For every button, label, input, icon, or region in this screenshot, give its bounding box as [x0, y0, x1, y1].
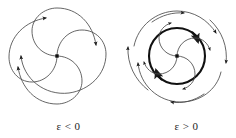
- trajectory-outer: [152, 13, 184, 22]
- phase-portrait-panel-right: ε > 0: [118, 0, 236, 138]
- trajectory: [32, 8, 96, 56]
- trajectory: [18, 56, 82, 104]
- trajectory-outer: [210, 20, 226, 63]
- trajectory-outer: [138, 63, 221, 102]
- phase-portrait-stable-spiral: [0, 2, 118, 110]
- trajectory: [9, 18, 57, 82]
- fixed-point-marker: [175, 54, 178, 57]
- caption-left: ε < 0: [0, 108, 118, 138]
- fixed-point-marker: [55, 54, 58, 57]
- phase-portrait-panel-left: ε < 0: [0, 0, 118, 138]
- caption-right-text: ε > 0: [175, 120, 199, 132]
- caption-left-text: ε < 0: [57, 120, 81, 132]
- caption-right: ε > 0: [118, 108, 236, 138]
- phase-portrait-limit-cycle: [118, 2, 236, 110]
- hopf-bifurcation-figure: ε < 0: [0, 0, 236, 138]
